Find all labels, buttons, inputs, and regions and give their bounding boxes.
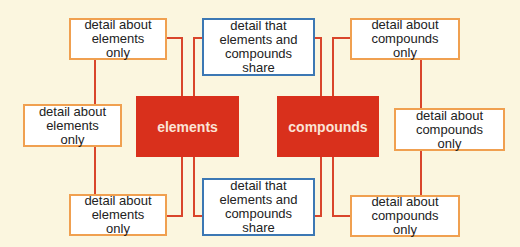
compounds-only-text: detail about compounds only <box>360 195 450 237</box>
compounds-only-box-bottom: detail about compounds only <box>350 195 460 237</box>
elements-only-text: detail about elements only <box>83 18 153 60</box>
compounds-only-box-middle: detail about compounds only <box>394 108 505 151</box>
compare-contrast-diagram: elements compounds detail about elements… <box>0 0 520 247</box>
elements-only-text: detail about elements only <box>37 105 108 147</box>
connector-elements-to-bottom-left <box>166 215 183 217</box>
compounds-box: compounds <box>277 96 379 157</box>
elements-box: elements <box>136 96 239 157</box>
shared-box-top: detail that elements and compounds share <box>202 18 315 76</box>
shared-text: detail that elements and compounds share <box>210 179 307 235</box>
elements-label: elements <box>157 120 218 134</box>
compounds-only-text: detail about compounds only <box>404 109 495 151</box>
connector-compounds-to-top-right <box>332 37 351 39</box>
connector-compounds-to-shared-bottom <box>314 215 322 217</box>
shared-text: detail that elements and compounds share <box>210 19 307 75</box>
shared-box-bottom: detail that elements and compounds share <box>202 178 315 236</box>
elements-only-box-middle: detail about elements only <box>23 104 122 147</box>
compounds-only-text: detail about compounds only <box>360 18 450 60</box>
connector-elements-to-top-left <box>166 37 183 39</box>
connector-compounds-to-shared-top <box>314 37 322 39</box>
elements-only-text: detail about elements only <box>83 194 153 236</box>
elements-only-box-top: detail about elements only <box>69 18 167 60</box>
elements-only-box-bottom: detail about elements only <box>69 194 167 236</box>
compounds-only-box-top: detail about compounds only <box>350 18 460 60</box>
connector-compounds-to-bottom-right <box>332 215 351 217</box>
compounds-label: compounds <box>288 120 367 134</box>
